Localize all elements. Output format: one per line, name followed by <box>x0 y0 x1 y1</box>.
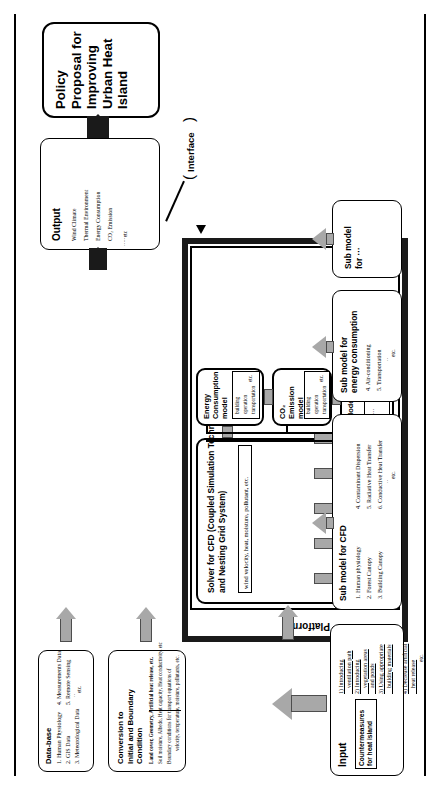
submodel-cfd-item: 5. Radiative Heat Transfer <box>366 445 373 509</box>
conversion-to-platform-arrowhead <box>136 607 156 619</box>
scale-up-arrow <box>314 468 334 479</box>
platform-input-arrow <box>282 616 294 640</box>
solver-transport-note: wind velocity, heat, moisture, pollutant… <box>242 477 249 589</box>
submodel-cfd-item: 6. Conductive Heat Transfer <box>377 440 384 509</box>
input-subtitle: Countermeasures for heat island <box>358 710 374 766</box>
conversion-note-line: Boundary conditions for transport equati… <box>167 669 173 765</box>
submodel-cfd-item: 1. Human physiology <box>355 546 362 599</box>
energy-consumption-model-title: Energy Consumption model <box>203 371 230 419</box>
scale-up-arrow <box>314 538 334 549</box>
output-item: Energy Consumption <box>95 192 101 241</box>
interface-leader-line <box>165 181 184 222</box>
submodel-energy-item: 4. Air-conditioning <box>365 344 372 391</box>
energy-model-etc: etc. <box>248 375 254 382</box>
output-item: Wind Climate <box>71 209 77 241</box>
database-to-conversion-arrowhead <box>56 607 76 619</box>
conversion-note-line: velocity, temperature, moisture, polluta… <box>175 655 181 751</box>
conversion-to-platform-arrow <box>140 618 152 642</box>
scale-up-arrow <box>314 433 334 444</box>
scale-up-arrow <box>314 573 334 584</box>
energy-consumption-model-box: Energy Consumption model building operat… <box>196 368 264 426</box>
database-etc: etc. <box>77 686 83 693</box>
page-rule-top <box>14 14 16 776</box>
submodel-energy-item: 5. Transportation <box>376 349 383 391</box>
feedback-branch <box>206 424 208 434</box>
feedback-branch <box>286 424 288 434</box>
conversion-note-bold: Land cover, Geometry, Artificial heat re… <box>149 657 155 764</box>
input-box: Input Countermeasures for heat island <box>330 624 404 776</box>
figure-page: Policy Proposal for Improving Urban Heat… <box>0 0 440 790</box>
policy-proposal-label: Policy Proposal for Improving Urban Heat… <box>53 31 131 109</box>
submodel-energy-dots: ·· <box>385 358 391 361</box>
output-dots: ······· <box>122 234 128 246</box>
output-connector-arrow <box>89 247 107 256</box>
policy-connector-arrow <box>88 114 108 124</box>
conversion-note-line: Soil moisture, Albedo, Heat capacity, He… <box>158 642 164 764</box>
interface-label: Interface <box>186 132 197 172</box>
energy-model-item: transportation <box>251 386 257 414</box>
energy-model-item: operation <box>243 395 249 414</box>
model-link-arrow <box>264 389 273 405</box>
co2-emission-model-box: CO₂ Emission model building operation tr… <box>272 368 332 426</box>
submodel-cfd-etc: etc. <box>390 471 396 479</box>
co2-model-etc: etc. <box>319 375 325 382</box>
platform-input-arrowhead <box>278 605 298 617</box>
interface-bracket-left: ( <box>181 175 198 180</box>
submodel-cfd-heading: Sub model for CFD <box>339 525 348 601</box>
interface-leader-arrow <box>196 225 206 234</box>
submodel-cfd-item: 2. Forest Canopy <box>366 557 373 599</box>
submodel-cfd-item: 3. Building Canopy <box>377 551 384 599</box>
submodel-energy-box: Sub model for energy consumption 4. Air-… <box>332 290 402 402</box>
co2-emission-model-title: CO₂ Emission model <box>279 386 306 419</box>
co2-model-item: building <box>306 397 312 414</box>
output-heading: Output <box>51 208 62 241</box>
database-item: 4. Measurements Data <box>56 651 63 705</box>
output-item: CO₂ Emission <box>107 208 113 241</box>
database-item: 1. Human Physiology <box>56 712 63 764</box>
submodel-energy-etc: etc. <box>390 349 396 357</box>
database-dots: ·· <box>72 694 78 697</box>
database-item: 3. Meteorological Data <box>74 709 81 764</box>
page-rule-bottom <box>424 14 426 776</box>
database-item: 5. Remote Sensing <box>65 660 72 705</box>
scale-up-arrow <box>314 503 334 514</box>
platform-label: Platform <box>289 621 330 632</box>
database-to-conversion-arrow <box>60 618 72 642</box>
submodel-generic-heading: Sub model for ··· <box>343 226 364 269</box>
conversion-box: Conversion to Initial and Boundary Condi… <box>108 650 186 772</box>
submodel-cfd-item: 4. Contaminant Dispersion <box>355 443 362 509</box>
output-item: Thermal Environment <box>83 190 89 241</box>
interface-bracket-right: ) <box>181 117 198 122</box>
co2-model-item: transportation <box>322 386 328 414</box>
output-box: Output Wind Climate Thermal Environment … <box>40 138 160 250</box>
submodel-cfd-dots: ·· <box>385 480 391 483</box>
database-box: Data-base 1. Human Physiology 2. GIS Dat… <box>38 650 94 772</box>
conversion-label: Conversion to Initial and Boundary Condi… <box>116 689 145 764</box>
submodel-generic-box: Sub model for ··· <box>332 200 402 278</box>
submodel-energy-heading: Sub model for energy consumption <box>339 311 359 393</box>
submodel-for-cfd-box: Sub model for CFD 1. Human physiology 2.… <box>332 414 402 610</box>
energy-model-item: building <box>235 397 241 414</box>
database-item: 2. GIS Data <box>65 736 72 765</box>
co2-model-item: operation <box>314 395 320 414</box>
input-heading: Input <box>337 743 348 767</box>
database-heading: Data-base <box>45 728 54 764</box>
policy-proposal-box: Policy Proposal for Improving Urban Heat… <box>42 22 160 118</box>
